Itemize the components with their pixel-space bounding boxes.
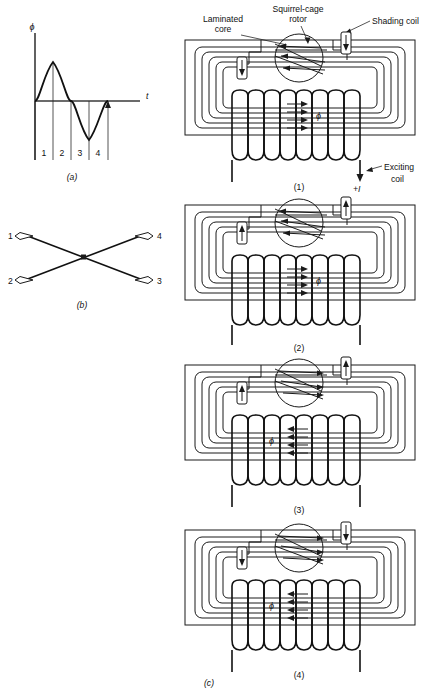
shading-coil-right[interactable]	[341, 32, 351, 54]
shading-coil-left[interactable]	[237, 382, 247, 404]
flux-label: ϕ	[269, 601, 274, 611]
flux-arrows	[287, 266, 308, 296]
laminated-core-label-line2: core	[215, 24, 232, 34]
flux-label: ϕ	[269, 436, 274, 446]
exciting-coil-leader-arrowhead	[366, 167, 373, 172]
rotor-label-line1: Squirrel-cage	[272, 4, 323, 14]
waveform-panel: ϕ t 1 2 3 4 (a)	[0, 0, 175, 195]
core-lamination-outer	[185, 40, 415, 135]
vector-label-1: 1	[8, 231, 13, 241]
exciting-coil-winding	[232, 255, 360, 325]
core-lamination-4	[209, 57, 391, 118]
shading-coil-left[interactable]	[237, 222, 247, 244]
stage-number-4: (4)	[294, 670, 305, 680]
waveform-quadrant-2: 2	[60, 148, 65, 158]
shading-coil-label: Shading coil	[372, 16, 419, 26]
stage-number-3: (3)	[294, 505, 305, 515]
exciting-coil-winding	[232, 580, 360, 650]
flux-label: ϕ	[316, 276, 321, 286]
shading-coil-right[interactable]	[341, 522, 351, 544]
figure-root: ϕ t 1 2 3 4 (a) 1 2 3 4	[0, 0, 425, 688]
vector-crossing-point	[81, 255, 86, 260]
exciting-coil-winding	[232, 415, 360, 485]
vector-label-2: 2	[8, 276, 13, 286]
core-lamination-2	[195, 47, 405, 128]
squirrel-cage-rotor	[275, 359, 323, 407]
rotor-flux-lines	[275, 209, 325, 240]
motor-stage-3: ϕ (3)	[175, 355, 425, 520]
rotor-label-line2: rotor	[289, 14, 307, 24]
motor-panel-caption: (c)	[204, 678, 214, 688]
exciting-coil-winding	[232, 90, 360, 160]
motor-stage-1: Laminated core Squirrel-cage rotor Shadi…	[175, 0, 425, 195]
exciting-coil-label-line1: Exciting	[384, 162, 414, 172]
flux-label: ϕ	[316, 111, 321, 121]
vector-diagram-panel: 1 2 3 4 (b)	[0, 195, 175, 320]
core-lamination-4	[209, 222, 391, 283]
vector-label-3: 3	[157, 276, 162, 286]
shading-coil-right[interactable]	[341, 357, 351, 379]
vector-diagram-caption: (b)	[77, 300, 88, 310]
waveform-x-axis-label: t	[146, 91, 149, 101]
waveform-quadrant-3: 3	[78, 148, 83, 158]
rotor-flux-lines	[275, 44, 325, 75]
flux-arrows	[287, 101, 308, 131]
core-lamination-4	[209, 382, 391, 443]
rotor-leader-arrowhead	[305, 38, 311, 45]
stage-number-1: (1)	[294, 182, 305, 192]
waveform-quadrant-1: 1	[42, 148, 47, 158]
flux-arrows	[287, 591, 308, 621]
exciting-coil-label-line2: coil	[391, 174, 404, 184]
shading-coil-right[interactable]	[341, 197, 351, 219]
shading-coil-left[interactable]	[237, 57, 247, 79]
core-lamination-outer	[185, 530, 415, 625]
laminated-core-label-line1: Laminated	[203, 14, 243, 24]
rotor-flux-lines	[275, 369, 324, 399]
motor-stage-4: ϕ (4) (c)	[175, 520, 425, 688]
rotor-flux-lines	[275, 534, 324, 564]
core-lamination-2	[195, 212, 405, 293]
flux-arrows	[287, 426, 308, 456]
core-lamination-4	[209, 547, 391, 608]
current-direction-arrow	[357, 174, 364, 182]
vector-arrowhead-1	[15, 233, 33, 240]
waveform-quadrant-4: 4	[96, 148, 101, 158]
squirrel-cage-rotor	[275, 524, 323, 572]
waveform-caption: (a)	[67, 172, 78, 182]
waveform-y-axis-label: ϕ	[29, 22, 34, 32]
current-label: +I	[353, 184, 361, 194]
stage-number-2: (2)	[294, 343, 305, 353]
core-lamination-outer	[185, 205, 415, 300]
core-lamination-outer	[185, 365, 415, 460]
shading-coil-left[interactable]	[237, 547, 247, 569]
vector-arrowhead-4	[135, 233, 153, 240]
vector-label-4: 4	[157, 231, 162, 241]
motor-stage-2: ϕ (2)	[175, 195, 425, 355]
